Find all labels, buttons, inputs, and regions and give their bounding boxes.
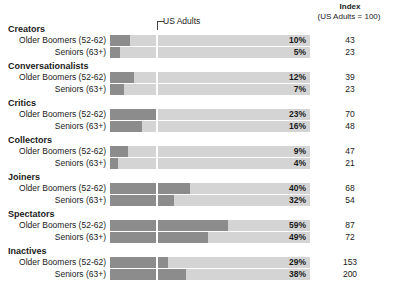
percent-label: 16% bbox=[289, 121, 306, 132]
group-title: Inactives bbox=[8, 246, 47, 257]
bar-track: 7% bbox=[110, 84, 310, 95]
chart-row: Seniors (63+)49%72 bbox=[0, 232, 402, 243]
percent-label: 23% bbox=[289, 109, 306, 120]
index-value: 48 bbox=[318, 121, 382, 132]
us-adults-reference-label: US Adults bbox=[163, 16, 200, 26]
percent-label: 4% bbox=[294, 158, 306, 169]
index-value: 70 bbox=[318, 109, 382, 120]
us-adults-reference-line bbox=[156, 84, 158, 95]
index-value: 87 bbox=[318, 220, 382, 231]
us-adults-reference-line bbox=[156, 232, 158, 243]
chart-row: Older Boomers (52-62)12%39 bbox=[0, 72, 402, 83]
bar-fill bbox=[110, 158, 118, 169]
bar-track: 5% bbox=[110, 47, 310, 58]
us-adults-reference-line bbox=[156, 72, 158, 83]
bar-fill bbox=[110, 269, 186, 280]
percent-label: 5% bbox=[294, 47, 306, 58]
index-column-subtitle: (US Adults = 100) bbox=[296, 12, 402, 22]
percent-label: 40% bbox=[289, 183, 306, 194]
chart-row: Older Boomers (52-62)29%153 bbox=[0, 257, 402, 268]
row-label: Older Boomers (52-62) bbox=[0, 183, 106, 194]
row-label: Older Boomers (52-62) bbox=[0, 220, 106, 231]
chart-row: Older Boomers (52-62)9%47 bbox=[0, 146, 402, 157]
index-value: 43 bbox=[318, 35, 382, 46]
percent-label: 7% bbox=[294, 84, 306, 95]
bar-fill bbox=[110, 109, 156, 120]
us-adults-reference-line bbox=[156, 146, 158, 157]
group-title: Spectators bbox=[8, 209, 55, 220]
index-column-title: Index bbox=[300, 2, 400, 12]
row-label: Older Boomers (52-62) bbox=[0, 72, 106, 83]
group-title: Critics bbox=[8, 98, 36, 109]
chart-row: Older Boomers (52-62)40%68 bbox=[0, 183, 402, 194]
bar-fill bbox=[110, 72, 134, 83]
bar-fill bbox=[110, 84, 124, 95]
us-adults-reference-line bbox=[156, 220, 158, 231]
percent-label: 59% bbox=[289, 220, 306, 231]
row-label: Older Boomers (52-62) bbox=[0, 146, 106, 157]
bar-track: 12% bbox=[110, 72, 310, 83]
index-value: 153 bbox=[318, 257, 382, 268]
index-value: 54 bbox=[318, 195, 382, 206]
us-adults-reference-line bbox=[156, 47, 158, 58]
bar-track: 32% bbox=[110, 195, 310, 206]
bar-fill bbox=[110, 35, 130, 46]
row-label: Seniors (63+) bbox=[0, 121, 106, 132]
bar-fill bbox=[110, 220, 228, 231]
index-value: 200 bbox=[318, 269, 382, 280]
group-title: Creators bbox=[8, 24, 45, 35]
technographics-chart: Index (US Adults = 100) US Adults Creato… bbox=[0, 0, 402, 288]
chart-row: Seniors (63+)38%200 bbox=[0, 269, 402, 280]
percent-label: 49% bbox=[289, 232, 306, 243]
index-value: 68 bbox=[318, 183, 382, 194]
row-label: Older Boomers (52-62) bbox=[0, 35, 106, 46]
chart-row: Seniors (63+)4%21 bbox=[0, 158, 402, 169]
chart-row: Seniors (63+)7%23 bbox=[0, 84, 402, 95]
bar-track: 4% bbox=[110, 158, 310, 169]
row-label: Seniors (63+) bbox=[0, 47, 106, 58]
percent-label: 12% bbox=[289, 72, 306, 83]
chart-row: Seniors (63+)16%48 bbox=[0, 121, 402, 132]
chart-row: Seniors (63+)5%23 bbox=[0, 47, 402, 58]
group-title: Conversationalists bbox=[8, 61, 89, 72]
us-adults-reference-line bbox=[156, 257, 158, 268]
row-label: Seniors (63+) bbox=[0, 84, 106, 95]
bar-track: 59% bbox=[110, 220, 310, 231]
us-adults-reference-line bbox=[156, 109, 158, 120]
index-value: 23 bbox=[318, 47, 382, 58]
percent-label: 9% bbox=[294, 146, 306, 157]
bar-track: 16% bbox=[110, 121, 310, 132]
row-label: Seniors (63+) bbox=[0, 195, 106, 206]
bar-fill bbox=[110, 146, 128, 157]
bar-track: 9% bbox=[110, 146, 310, 157]
chart-row: Older Boomers (52-62)23%70 bbox=[0, 109, 402, 120]
bar-fill bbox=[110, 47, 120, 58]
row-label: Seniors (63+) bbox=[0, 269, 106, 280]
bar-track: 29% bbox=[110, 257, 310, 268]
bar-fill bbox=[110, 121, 142, 132]
us-adults-reference-line bbox=[156, 35, 158, 46]
bar-fill bbox=[110, 257, 168, 268]
row-label: Seniors (63+) bbox=[0, 158, 106, 169]
index-value: 21 bbox=[318, 158, 382, 169]
group-title: Joiners bbox=[8, 172, 40, 183]
bar-fill bbox=[110, 195, 174, 206]
bar-track: 38% bbox=[110, 269, 310, 280]
chart-row: Older Boomers (52-62)10%43 bbox=[0, 35, 402, 46]
row-label: Older Boomers (52-62) bbox=[0, 109, 106, 120]
index-value: 47 bbox=[318, 146, 382, 157]
index-value: 72 bbox=[318, 232, 382, 243]
percent-label: 10% bbox=[289, 35, 306, 46]
chart-row: Seniors (63+)32%54 bbox=[0, 195, 402, 206]
percent-label: 38% bbox=[289, 269, 306, 280]
percent-label: 32% bbox=[289, 195, 306, 206]
chart-row: Older Boomers (52-62)59%87 bbox=[0, 220, 402, 231]
group-title: Collectors bbox=[8, 135, 52, 146]
bar-fill bbox=[110, 183, 190, 194]
row-label: Seniors (63+) bbox=[0, 232, 106, 243]
us-adults-reference-line bbox=[156, 183, 158, 194]
us-adults-reference-line bbox=[156, 121, 158, 132]
index-value: 23 bbox=[318, 84, 382, 95]
bar-track: 10% bbox=[110, 35, 310, 46]
us-adults-reference-line bbox=[156, 195, 158, 206]
